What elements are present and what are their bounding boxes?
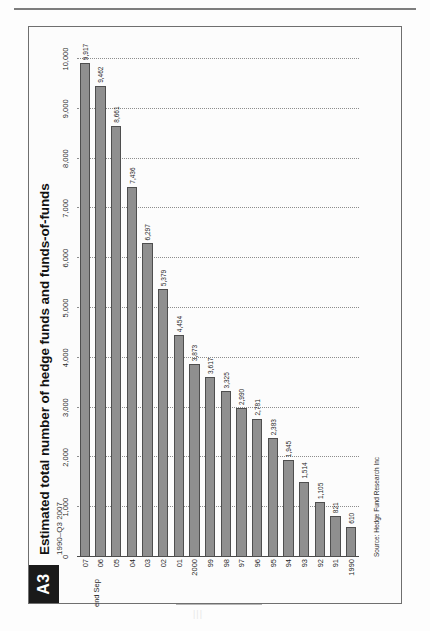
bar — [236, 408, 246, 557]
bar — [80, 63, 90, 557]
value-axis-tick-label: 9,000 — [61, 99, 70, 118]
value-axis-tick-label: 5,000 — [61, 299, 70, 318]
bar — [111, 126, 121, 557]
category-axis-label: 97 — [237, 559, 246, 583]
bar-row: 1,94594 — [283, 59, 293, 557]
bar-value-label: 1,105 — [316, 483, 323, 499]
category-axis-label: 03 — [143, 559, 152, 583]
value-axis-tick-label: 8,000 — [61, 149, 70, 168]
bar — [205, 377, 215, 557]
value-axis-tick-label: 1,000 — [61, 498, 70, 517]
figure-badge: A3 — [29, 565, 59, 603]
value-axis-tick-label: 4,000 — [61, 348, 70, 367]
bar-value-label: 9,917 — [81, 44, 88, 60]
bar — [127, 187, 137, 557]
category-axis-label: 2000 — [190, 559, 199, 583]
bar — [330, 516, 340, 557]
bar — [283, 460, 293, 557]
category-axis-label: 94 — [284, 559, 293, 583]
bar-row: 2,78196 — [252, 59, 262, 557]
bar-row: 9,91707end Sep — [80, 59, 90, 557]
bar-value-label: 821 — [332, 502, 339, 513]
bar-row: 4,45401 — [174, 59, 184, 557]
bar-value-label: 6,297 — [144, 224, 151, 240]
category-axis-label: 96 — [253, 559, 262, 583]
value-axis-tick-label: 10,000 — [61, 48, 70, 71]
value-axis-tick-label: 6,000 — [61, 249, 70, 268]
figure-panel: A3 Estimated total number of hedge funds… — [28, 26, 402, 604]
category-axis-label: 98 — [221, 559, 230, 583]
rotated-figure-wrapper: A3 Estimated total number of hedge funds… — [28, 26, 402, 604]
category-axis-label: 07 — [80, 559, 89, 583]
bar-row: 1,10592 — [315, 59, 325, 557]
bar-row: 3,32598 — [221, 59, 231, 557]
bar-row: 9,46206 — [95, 59, 105, 557]
scanned-page: A3 Estimated total number of hedge funds… — [0, 0, 430, 631]
page-top-rule — [14, 8, 416, 10]
category-axis-label: 1990 — [347, 559, 356, 583]
bar — [95, 86, 105, 557]
bar-value-label: 610 — [348, 513, 355, 524]
bar — [221, 391, 231, 557]
bar-row: 2,38395 — [268, 59, 278, 557]
bar-value-label: 7,436 — [128, 167, 135, 183]
category-axis-label: 01 — [174, 559, 183, 583]
plot-area: 01,0002,0003,0004,0005,0006,0007,0008,00… — [77, 59, 359, 557]
bar-value-label: 3,873 — [191, 345, 198, 361]
category-axis-label: 93 — [300, 559, 309, 583]
bar — [189, 364, 199, 557]
category-axis-label: 95 — [268, 559, 277, 583]
bar-value-label: 4,454 — [175, 316, 182, 332]
bar-value-label: 1,514 — [301, 462, 308, 478]
bar — [315, 502, 325, 557]
bar — [268, 438, 278, 557]
bar-value-label: 2,383 — [269, 419, 276, 435]
bar-value-label: 2,990 — [238, 389, 245, 405]
category-axis-label: 04 — [127, 559, 136, 583]
bar-row: 6101990 — [346, 59, 356, 557]
bar-row: 7,43604 — [127, 59, 137, 557]
bar-row: 1,51493 — [299, 59, 309, 557]
bar — [174, 335, 184, 557]
value-axis-tick-label: 2,000 — [61, 448, 70, 467]
page-bottom-rule — [176, 604, 262, 605]
figure-title: Estimated total number of hedge funds an… — [37, 183, 52, 555]
bar-value-label: 2,781 — [254, 399, 261, 415]
bar-value-label: 1,945 — [285, 441, 292, 457]
bar-value-label: 3,325 — [222, 372, 229, 388]
category-axis-label: 92 — [315, 559, 324, 583]
value-axis-tick-label: 7,000 — [61, 199, 70, 218]
value-axis-tick-label: 0 — [61, 555, 70, 559]
category-axis-label: 05 — [112, 559, 121, 583]
bar-value-label: 9,462 — [97, 67, 104, 83]
bar-row: 8,66105 — [111, 59, 121, 557]
bar — [142, 243, 152, 557]
category-axis-label: 91 — [331, 559, 340, 583]
bar — [299, 482, 309, 557]
bar-row: 3,8732000 — [189, 59, 199, 557]
bar-row: 5,37902 — [158, 59, 168, 557]
category-axis-label: 99 — [206, 559, 215, 583]
value-axis-tick-label: 3,000 — [61, 398, 70, 417]
category-axis-note: end Sep — [92, 579, 101, 607]
category-axis-label: 02 — [159, 559, 168, 583]
bar-value-label: 5,379 — [160, 270, 167, 286]
figure-source: Source: Hedge Fund Research Inc — [373, 457, 380, 557]
bar-row: 2,99097 — [236, 59, 246, 557]
bar-row: 3,61799 — [205, 59, 215, 557]
bar — [346, 527, 356, 557]
page-bottom-mark: ||| — [193, 609, 203, 619]
bar-row: 6,29703 — [142, 59, 152, 557]
bar — [158, 289, 168, 557]
bar-row: 82191 — [330, 59, 340, 557]
bar-value-label: 3,617 — [207, 358, 214, 374]
bar — [252, 419, 262, 557]
plot-inner: 01,0002,0003,0004,0005,0006,0007,0008,00… — [77, 59, 359, 557]
bar-value-label: 8,661 — [113, 106, 120, 122]
